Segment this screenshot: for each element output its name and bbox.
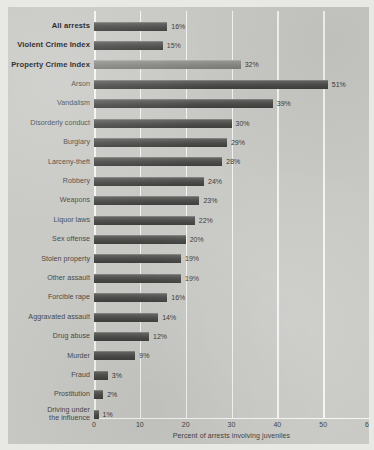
category-label: Arson: [8, 80, 90, 88]
category-label: Violent Crime Index: [8, 41, 90, 49]
bar-row: Stolen property19%: [94, 249, 369, 269]
x-tick-label: 40: [273, 421, 281, 428]
bar: [94, 410, 99, 419]
bar-value-label: 22%: [199, 217, 213, 224]
scanned-page-surface: All arrests16%Violent Crime Index15%Prop…: [0, 0, 374, 450]
category-label: Robbery: [8, 177, 90, 185]
bar-value-label: 19%: [185, 275, 199, 282]
bar-value-label: 14%: [162, 314, 176, 321]
category-label: Forcible rape: [8, 293, 90, 301]
bar: [94, 274, 181, 283]
bar-value-label: 28%: [226, 158, 240, 165]
bar: [94, 80, 328, 89]
category-label: Burglary: [8, 138, 90, 146]
bar-row: Property Crime Index32%: [94, 55, 369, 75]
bar-row: Prostitution2%: [94, 385, 369, 405]
category-label: Drug abuse: [8, 332, 90, 340]
bar-value-label: 3%: [112, 372, 122, 379]
bar-value-label: 30%: [236, 120, 250, 127]
bar: [94, 157, 222, 166]
bar: [94, 371, 108, 380]
bar-value-label: 16%: [171, 294, 185, 301]
x-tick-label: 50: [319, 421, 327, 428]
bar-row: All arrests16%: [94, 16, 369, 36]
bar: [94, 293, 167, 302]
bar-row: Fraud3%: [94, 365, 369, 385]
bar-row: Forcible rape16%: [94, 288, 369, 308]
bar-value-label: 39%: [277, 100, 291, 107]
x-axis-title: Percent of arrests involving juveniles: [94, 432, 369, 439]
bar-value-label: 29%: [231, 139, 245, 146]
bar-row: Murder9%: [94, 346, 369, 366]
bar-chart-panel: All arrests16%Violent Crime Index15%Prop…: [8, 7, 369, 444]
bar-row: Weapons23%: [94, 191, 369, 211]
bar-row: Arson51%: [94, 74, 369, 94]
category-label: Weapons: [8, 196, 90, 204]
bar-value-label: 19%: [185, 255, 199, 262]
bar: [94, 177, 204, 186]
category-label: Liquor laws: [8, 216, 90, 224]
bar-row: Violent Crime Index15%: [94, 35, 369, 55]
bar-row: Liquor laws22%: [94, 210, 369, 230]
bar: [94, 41, 163, 50]
bar-row: Sex offense20%: [94, 229, 369, 249]
bar-value-label: 20%: [190, 236, 204, 243]
category-label: All arrests: [8, 22, 90, 30]
bar: [94, 196, 199, 205]
bar-row: Robbery24%: [94, 171, 369, 191]
bar-value-label: 12%: [153, 333, 167, 340]
bar-value-label: 16%: [171, 23, 185, 30]
bar-value-label: 2%: [107, 391, 117, 398]
bar-value-label: 1%: [103, 411, 113, 418]
bar-row: Disorderly conduct30%: [94, 113, 369, 133]
bar: [94, 390, 103, 399]
bar-rows: All arrests16%Violent Crime Index15%Prop…: [94, 11, 369, 419]
category-label: Disorderly conduct: [8, 119, 90, 127]
category-label: Aggravated assault: [8, 313, 90, 321]
x-tick-label: 30: [228, 421, 236, 428]
category-label: Murder: [8, 352, 90, 360]
bar-value-label: 32%: [245, 61, 259, 68]
bar-row: Drug abuse12%: [94, 326, 369, 346]
bar-row: Vandalism39%: [94, 94, 369, 114]
category-label: Other assault: [8, 274, 90, 282]
x-axis: 0102030405060 Percent of arrests involvi…: [94, 421, 369, 443]
category-label: Vandalism: [8, 99, 90, 107]
bar: [94, 138, 227, 147]
x-tick-label: 60: [365, 421, 369, 428]
category-label: Prostitution: [8, 390, 90, 398]
bar: [94, 332, 149, 341]
bar: [94, 313, 158, 322]
x-tick-label: 10: [136, 421, 144, 428]
bar: [94, 60, 241, 69]
category-label: Property Crime Index: [8, 61, 90, 69]
bar: [94, 22, 167, 31]
bar-value-label: 24%: [208, 178, 222, 185]
bar-value-label: 9%: [139, 352, 149, 359]
category-label: Driving under the influence: [8, 406, 90, 422]
category-label: Stolen property: [8, 255, 90, 263]
bar-row: Other assault19%: [94, 268, 369, 288]
bar: [94, 99, 273, 108]
bar-row: Aggravated assault14%: [94, 307, 369, 327]
category-label: Fraud: [8, 371, 90, 379]
plot-area: All arrests16%Violent Crime Index15%Prop…: [94, 11, 369, 419]
bar-row: Burglary29%: [94, 132, 369, 152]
bar: [94, 254, 181, 263]
bar: [94, 351, 135, 360]
bar-value-label: 23%: [203, 197, 217, 204]
bar-row: Larceny-theft28%: [94, 152, 369, 172]
bar: [94, 119, 232, 128]
category-label: Sex offense: [8, 235, 90, 243]
category-label: Larceny-theft: [8, 158, 90, 166]
bar-value-label: 51%: [332, 81, 346, 88]
bar: [94, 216, 195, 225]
bar: [94, 235, 186, 244]
bar-value-label: 15%: [167, 42, 181, 49]
x-tick-label: 20: [182, 421, 190, 428]
x-tick-label: 0: [92, 421, 96, 428]
